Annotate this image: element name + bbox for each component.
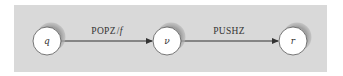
- edge-label-pushz: PUSHZ: [213, 26, 245, 36]
- state-diagram: POPZ/f PUSHZ q ν r: [0, 0, 343, 76]
- node-label-nu: ν: [164, 36, 170, 46]
- node-label-q: q: [44, 36, 50, 46]
- state-node-q: q: [33, 23, 66, 56]
- edge-q-to-nu: POPZ/f: [61, 26, 152, 41]
- state-node-nu: ν: [153, 23, 186, 56]
- state-node-r: r: [279, 23, 312, 56]
- edge-nu-to-r: PUSHZ: [181, 26, 278, 41]
- edge-label-popz-f: POPZ/f: [91, 26, 123, 36]
- node-label-r: r: [291, 36, 296, 46]
